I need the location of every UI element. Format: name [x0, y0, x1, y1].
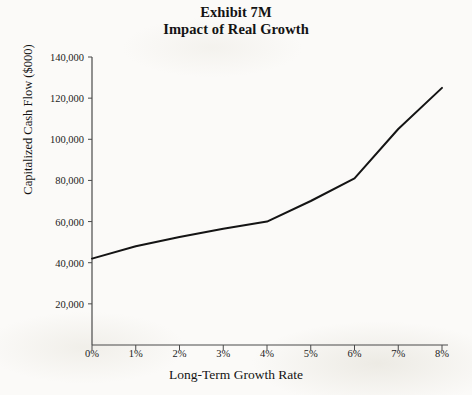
- x-axis-ticks: [92, 345, 442, 350]
- chart-axes: [92, 57, 448, 345]
- data-series-line: [92, 88, 442, 259]
- chart-plot-area: Capitalized Cash Flow ($000) Long-Term G…: [0, 0, 472, 395]
- chart-svg: [0, 0, 472, 395]
